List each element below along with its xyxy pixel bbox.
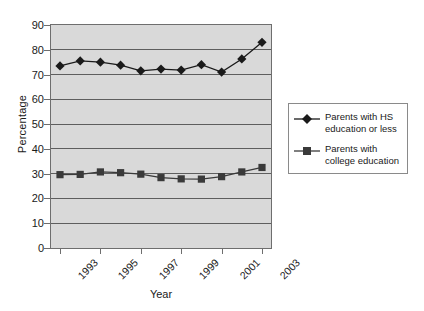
legend-item[interactable]: Parents with HS education or less (294, 111, 401, 134)
legend-item-label: Parents with HS education or less (325, 111, 397, 134)
data-point-marker (137, 171, 144, 178)
data-point-marker (178, 175, 185, 182)
x-tick-mark (262, 249, 263, 254)
y-tick-label: 80 (4, 45, 44, 56)
plot-svg (51, 25, 271, 248)
data-point-marker (177, 65, 186, 74)
legend-item[interactable]: Parents with college education (294, 143, 401, 166)
x-tick-label: 2003 (278, 257, 302, 281)
x-tick-label: 1995 (116, 257, 140, 281)
plot-area (50, 24, 272, 249)
x-tick-mark (100, 249, 101, 254)
data-point-marker (156, 65, 165, 74)
data-point-marker (117, 169, 124, 176)
series-1 (55, 38, 266, 77)
legend-item-label: Parents with college education (325, 143, 399, 166)
x-tick-mark (141, 249, 142, 254)
y-tick-label: 90 (4, 20, 44, 31)
data-point-marker (157, 174, 164, 181)
data-point-marker (97, 168, 104, 175)
y-tick-label: 20 (4, 193, 44, 204)
y-tick-label: 40 (4, 144, 44, 155)
data-point-marker (76, 56, 85, 65)
data-point-marker (258, 164, 265, 171)
x-tick-mark (222, 249, 223, 254)
data-point-marker (55, 61, 64, 70)
x-tick-label: 2001 (237, 257, 261, 281)
y-tick-label: 60 (4, 94, 44, 105)
x-tick-label: 1999 (197, 257, 221, 281)
data-point-marker (198, 176, 205, 183)
y-tick-label: 50 (4, 119, 44, 130)
y-tick-label: 10 (4, 218, 44, 229)
x-tick-label: 1997 (157, 257, 181, 281)
x-tick-mark (60, 249, 61, 254)
diamond-marker-icon (294, 112, 320, 126)
x-tick-mark (181, 249, 182, 254)
y-tick-label: 70 (4, 70, 44, 81)
line-chart-figure: Percentage 9080706050403020100 199319951… (0, 0, 424, 311)
data-point-marker (116, 61, 125, 70)
chart-legend: Parents with HS education or lessParents… (288, 103, 408, 174)
data-point-marker (77, 171, 84, 178)
square-marker-icon (294, 144, 320, 158)
x-axis-title: Year (50, 288, 272, 300)
data-point-marker (56, 171, 63, 178)
data-point-marker (218, 173, 225, 180)
y-tick-label: 30 (4, 169, 44, 180)
y-tick-label: 0 (4, 243, 44, 254)
data-point-marker (217, 67, 226, 76)
data-point-marker (96, 58, 105, 67)
x-tick-label: 1993 (76, 257, 100, 281)
data-point-marker (197, 60, 206, 69)
data-point-marker (238, 168, 245, 175)
